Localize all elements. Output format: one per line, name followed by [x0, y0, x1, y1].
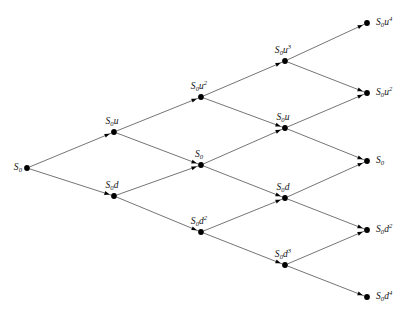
- label-subscript: 0: [196, 85, 199, 92]
- label-exponent: 2: [389, 222, 392, 229]
- edge-arrowhead-icon: [357, 95, 363, 99]
- lattice-node[interactable]: [364, 158, 370, 164]
- lattice-node[interactable]: [198, 229, 204, 235]
- lattice-edge: [117, 98, 199, 131]
- edge-arrowhead-icon: [357, 88, 363, 92]
- label-subscript: 0: [196, 220, 199, 227]
- lattice-edge: [204, 233, 283, 264]
- lattice-node[interactable]: [111, 129, 117, 135]
- label-subscript: 0: [200, 153, 203, 160]
- lattice-edge: [204, 62, 283, 96]
- label-subscript: 0: [381, 295, 384, 302]
- node-label: S0u: [276, 113, 289, 123]
- edge-arrowhead-icon: [275, 63, 281, 67]
- edge-arrowhead-icon: [357, 292, 363, 296]
- lattice-edge: [288, 162, 365, 197]
- node-label: S0: [14, 163, 22, 173]
- edge-arrowhead-icon: [104, 134, 110, 138]
- edge-arrowhead-icon: [275, 130, 281, 134]
- label-subscript: 0: [280, 253, 283, 260]
- node-label: S0d4: [376, 292, 392, 302]
- lattice-edge: [204, 166, 283, 197]
- label-factor: d: [285, 182, 290, 192]
- lattice-edge: [288, 231, 365, 264]
- edge-arrowhead-icon: [275, 260, 281, 264]
- lattice-node[interactable]: [364, 20, 370, 26]
- lattice-node[interactable]: [364, 294, 370, 300]
- node-label: S0u2: [376, 88, 392, 98]
- lattice-edge: [30, 133, 112, 167]
- label-exponent: 3: [288, 42, 291, 49]
- label-factor: u: [285, 112, 290, 122]
- label-exponent: 4: [389, 15, 392, 22]
- label-subscript: 0: [19, 166, 22, 173]
- label-exponent: 2: [204, 78, 207, 85]
- lattice-node[interactable]: [282, 262, 288, 268]
- label-subscript: 0: [281, 116, 284, 123]
- label-exponent: 3: [288, 246, 291, 253]
- edge-arrowhead-icon: [357, 163, 363, 167]
- lattice-edge: [288, 62, 365, 92]
- lattice-edge: [204, 98, 283, 127]
- label-subscript: 0: [280, 49, 283, 56]
- node-label: S0u4: [376, 18, 392, 28]
- lattice-node[interactable]: [364, 90, 370, 96]
- node-label: S0d: [276, 183, 289, 193]
- lattice-node[interactable]: [282, 58, 288, 64]
- lattice-edge: [288, 94, 365, 127]
- node-label: S0d: [105, 181, 118, 191]
- lattice-edge: [30, 169, 111, 195]
- lattice-node[interactable]: [282, 125, 288, 131]
- edge-arrowhead-icon: [275, 193, 281, 197]
- edge-arrowhead-icon: [191, 99, 197, 103]
- lattice-node[interactable]: [282, 195, 288, 201]
- edge-arrowhead-icon: [357, 232, 363, 236]
- edge-arrowhead-icon: [191, 166, 197, 170]
- lattice-canvas: [0, 0, 409, 319]
- node-label: S0: [195, 150, 203, 160]
- lattice-edge: [117, 166, 199, 195]
- edge-arrowhead-icon: [191, 160, 197, 164]
- node-label: S0d2: [376, 225, 392, 235]
- label-exponent: 4: [389, 289, 392, 296]
- label-factor: u: [114, 116, 119, 126]
- lattice-node[interactable]: [198, 162, 204, 168]
- label-exponent: 2: [204, 213, 207, 220]
- edge-arrowhead-icon: [191, 226, 197, 230]
- node-label: S0u2: [191, 82, 207, 92]
- lattice-edge: [117, 133, 199, 164]
- lattice-edge: [288, 24, 365, 60]
- label-subscript: 0: [110, 120, 113, 127]
- edge-arrowhead-icon: [275, 200, 281, 204]
- lattice-node[interactable]: [364, 227, 370, 233]
- edge-arrowhead-icon: [104, 191, 110, 195]
- node-label: S0d2: [191, 217, 207, 227]
- label-subscript: 0: [381, 159, 384, 166]
- label-subscript: 0: [381, 21, 384, 28]
- lattice-node[interactable]: [24, 165, 30, 171]
- label-factor: d: [114, 180, 119, 190]
- node-layer: [24, 20, 370, 300]
- lattice-node[interactable]: [111, 193, 117, 199]
- edge-arrowhead-icon: [357, 25, 363, 29]
- label-subscript: 0: [381, 228, 384, 235]
- lattice-edge: [204, 129, 283, 164]
- label-subscript: 0: [381, 91, 384, 98]
- edge-arrowhead-icon: [357, 225, 363, 229]
- lattice-edge: [288, 266, 365, 296]
- node-label: S0u: [105, 117, 118, 127]
- edge-layer: [30, 24, 365, 296]
- label-subscript: 0: [110, 184, 113, 191]
- lattice-edge: [204, 199, 283, 231]
- lattice-edge: [288, 199, 365, 229]
- edge-arrowhead-icon: [275, 123, 281, 127]
- node-label: S0: [376, 156, 384, 166]
- node-label: S0d3: [275, 250, 291, 260]
- lattice-edge: [288, 129, 365, 160]
- label-subscript: 0: [281, 186, 284, 193]
- edge-arrowhead-icon: [357, 155, 363, 159]
- binomial-lattice-diagram: S0S0uS0dS0u2S0S0d2S0u3S0uS0dS0d3S0u4S0u2…: [0, 0, 409, 319]
- label-exponent: 2: [389, 85, 392, 92]
- lattice-node[interactable]: [198, 94, 204, 100]
- node-label: S0u3: [275, 46, 291, 56]
